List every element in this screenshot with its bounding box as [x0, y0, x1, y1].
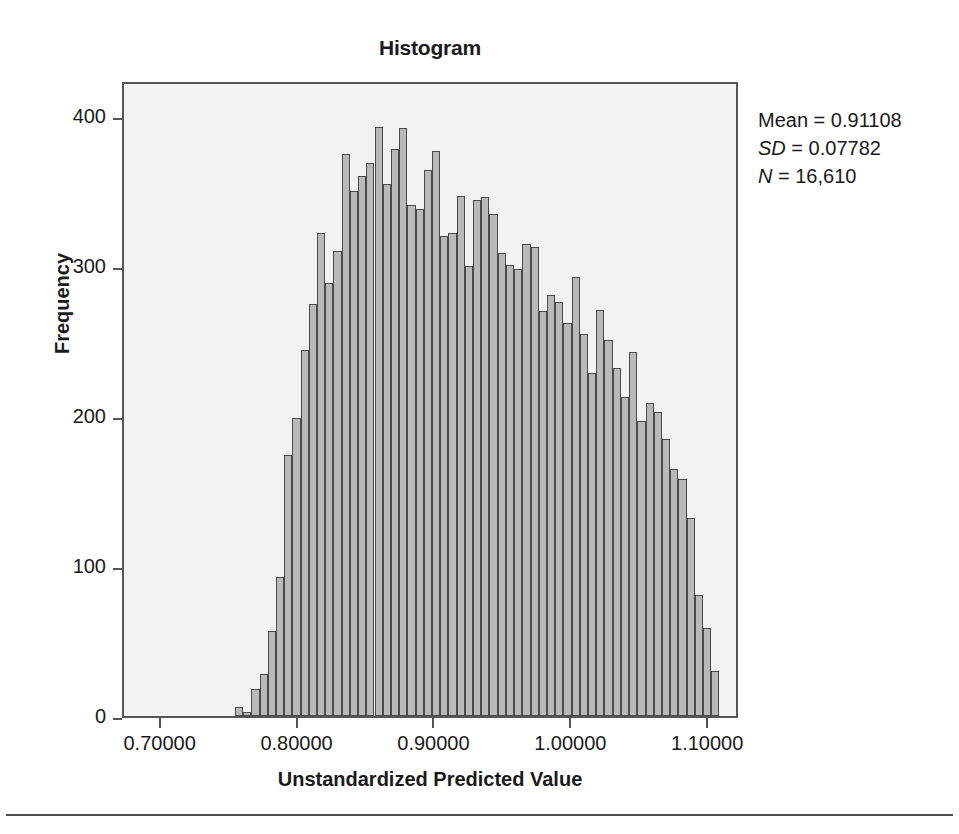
- histogram-figure: Histogram 0100200300400 Frequency 0.7000…: [0, 0, 959, 834]
- chart-title: Histogram: [122, 36, 738, 60]
- histogram-bar: [604, 340, 612, 717]
- x-axis-tick-label: 0.90000: [363, 732, 503, 755]
- y-axis-tick-label: 0: [95, 705, 106, 728]
- y-axis-title: Frequency: [51, 204, 74, 404]
- x-axis-tick-label: 0.80000: [227, 732, 367, 755]
- histogram-bar: [711, 671, 719, 716]
- histogram-bar: [317, 233, 325, 716]
- histogram-bar: [695, 595, 703, 717]
- y-axis-tick-label: 200: [73, 405, 106, 428]
- histogram-bar: [580, 334, 588, 717]
- statistics-annotation: Mean = 0.91108 SD = 0.07782 N = 16,610: [758, 106, 902, 190]
- histogram-bar: [563, 323, 571, 716]
- histogram-bar: [646, 403, 654, 717]
- histogram-bar: [292, 418, 300, 717]
- histogram-bar: [309, 304, 317, 717]
- stat-n: N = 16,610: [758, 162, 902, 190]
- histogram-bar: [260, 674, 268, 716]
- y-axis-tick-mark: [113, 118, 122, 120]
- histogram-bar: [301, 350, 309, 716]
- x-axis-tick-label: 1.00000: [500, 732, 640, 755]
- y-axis-tick-label: 300: [73, 255, 106, 278]
- histogram-bar: [325, 283, 333, 717]
- histogram-bar: [448, 233, 456, 716]
- histogram-bar: [637, 421, 645, 717]
- histogram-bar: [243, 712, 251, 717]
- histogram-bar: [687, 518, 695, 716]
- histogram-bar: [514, 269, 522, 716]
- histogram-bar: [432, 151, 440, 717]
- histogram-bar: [342, 154, 350, 717]
- histogram-bar: [276, 577, 284, 717]
- histogram-bar: [654, 412, 662, 717]
- histogram-bar: [375, 127, 383, 717]
- histogram-bar: [424, 170, 432, 716]
- histogram-bar: [662, 439, 670, 717]
- histogram-bar: [366, 163, 374, 717]
- histogram-bar: [333, 251, 341, 716]
- x-axis-tick-mark: [706, 718, 708, 728]
- histogram-bar: [350, 191, 358, 716]
- stat-sd: SD = 0.07782: [758, 134, 902, 162]
- histogram-bar: [588, 373, 596, 717]
- y-axis-tick-mark: [113, 568, 122, 570]
- x-axis-tick-mark: [296, 718, 298, 728]
- histogram-bar: [383, 184, 391, 717]
- stat-sd-symbol: SD: [758, 137, 786, 159]
- histogram-bar: [547, 295, 555, 717]
- histogram-bar: [596, 310, 604, 717]
- x-axis-tick-mark: [432, 718, 434, 728]
- x-axis-tick-mark: [159, 718, 161, 728]
- y-axis-tick-label: 400: [73, 105, 106, 128]
- histogram-bar: [629, 352, 637, 717]
- histogram-bar: [555, 302, 563, 716]
- histogram-bar: [506, 265, 514, 717]
- stat-sd-value: = 0.07782: [786, 137, 881, 159]
- histogram-bar: [440, 236, 448, 716]
- y-axis-tick-mark: [113, 418, 122, 420]
- histogram-bar: [481, 197, 489, 716]
- histogram-bar: [489, 214, 497, 717]
- histogram-bar: [465, 266, 473, 716]
- histogram-bar: [268, 631, 276, 717]
- histogram-bar: [251, 689, 259, 716]
- histogram-bar: [358, 176, 366, 716]
- x-axis-title: Unstandardized Predicted Value: [122, 768, 738, 791]
- stat-mean: Mean = 0.91108: [758, 106, 902, 134]
- x-axis-tick-label: 0.70000: [90, 732, 230, 755]
- y-axis-tick-mark: [113, 268, 122, 270]
- plot-area: [122, 82, 738, 718]
- histogram-bar: [670, 469, 678, 717]
- histogram-bar: [399, 128, 407, 716]
- histogram-bar: [284, 455, 292, 716]
- histogram-bar: [473, 200, 481, 716]
- x-axis-tick-mark: [569, 718, 571, 728]
- histogram-bar: [416, 209, 424, 716]
- x-axis-tick-label: 1.10000: [637, 732, 777, 755]
- histogram-bar: [572, 277, 580, 717]
- histogram-bar: [613, 368, 621, 716]
- y-axis-tick-label: 100: [73, 555, 106, 578]
- bottom-divider: [6, 814, 953, 816]
- histogram-bar: [457, 196, 465, 717]
- histogram-bar: [391, 149, 399, 716]
- histogram-bar: [522, 244, 530, 717]
- histogram-bars: [124, 84, 736, 716]
- histogram-bar: [703, 628, 711, 717]
- stat-n-value: = 16,610: [772, 165, 856, 187]
- stat-n-symbol: N: [758, 165, 772, 187]
- histogram-bar: [235, 707, 243, 716]
- histogram-bar: [531, 247, 539, 717]
- histogram-bar: [539, 311, 547, 716]
- histogram-bar: [407, 205, 415, 717]
- histogram-bar: [621, 397, 629, 717]
- histogram-bar: [678, 479, 686, 716]
- histogram-bar: [498, 253, 506, 717]
- y-axis-tick-mark: [113, 718, 122, 720]
